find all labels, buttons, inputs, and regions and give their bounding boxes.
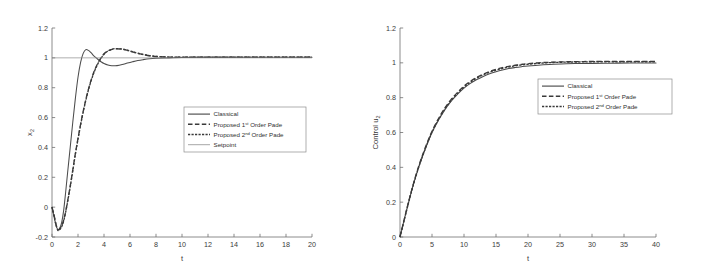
- legend-label-suffix: Order Pade: [248, 121, 282, 128]
- y-tick-label: 1.2: [38, 24, 48, 33]
- x-tick-label: 20: [524, 240, 532, 249]
- chart-panel-right: 051015202530354000.20.40.60.811.2tContro…: [352, 0, 704, 273]
- y-tick-label: 0.8: [38, 83, 48, 92]
- left-chart-svg: 02468101214161820-0.200.20.40.60.811.2tx…: [0, 0, 352, 273]
- x-tick-label: 14: [230, 240, 238, 249]
- y-tick-label: 0.4: [38, 143, 48, 152]
- y-tick-label: -0.2: [36, 233, 48, 242]
- legend-label-prefix: Proposed 2: [568, 103, 600, 110]
- y-axis-label: x2: [25, 129, 35, 136]
- y-tick-label: 0.6: [386, 128, 396, 137]
- x-tick-label: 10: [178, 240, 186, 249]
- x-tick-label: 2: [76, 240, 80, 249]
- y-axis-label-main: Control u: [371, 119, 380, 150]
- x-axis-label: t: [181, 254, 184, 263]
- x-tick-label: 4: [102, 240, 106, 249]
- legend-label-prefix: Proposed 1: [214, 121, 246, 128]
- x-tick-label: 40: [652, 240, 660, 249]
- legend-label: Proposed 1st Order Pade: [214, 121, 283, 128]
- legend-label-suffix: Order Pade: [250, 131, 284, 138]
- y-tick-label: 0: [392, 233, 396, 242]
- x-tick-label: 25: [556, 240, 564, 249]
- y-tick-label: 0.6: [38, 113, 48, 122]
- x-tick-label: 6: [128, 240, 132, 249]
- legend: ClassicalProposed 1st Order PadeProposed…: [184, 107, 306, 152]
- legend-label: Setpoint: [214, 141, 237, 148]
- legend-label-suffix: Order Pade: [602, 93, 636, 100]
- x-tick-label: 15: [492, 240, 500, 249]
- legend: ClassicalProposed 1st Order PadeProposed…: [538, 79, 672, 114]
- x-tick-label: 10: [460, 240, 468, 249]
- legend-label-prefix: Proposed 1: [568, 93, 600, 100]
- x-tick-label: 5: [430, 240, 434, 249]
- axes-group: [400, 28, 656, 237]
- figure-container: 02468101214161820-0.200.20.40.60.811.2tx…: [0, 0, 704, 273]
- legend-label: Classical: [214, 110, 239, 117]
- y-tick-label: 0: [44, 203, 48, 212]
- x-tick-label: 12: [204, 240, 212, 249]
- x-tick-label: 20: [308, 240, 316, 249]
- x-tick-label: 0: [50, 240, 54, 249]
- right-chart-svg: 051015202530354000.20.40.60.811.2tContro…: [352, 0, 704, 273]
- chart-panel-left: 02468101214161820-0.200.20.40.60.811.2tx…: [0, 0, 352, 273]
- y-tick-label: 0.2: [386, 198, 396, 207]
- x-axis-label: t: [527, 254, 530, 263]
- x-tick-label: 8: [154, 240, 158, 249]
- x-tick-label: 0: [398, 240, 402, 249]
- x-tick-group: 02468101214161820: [50, 234, 316, 249]
- x-tick-label: 35: [620, 240, 628, 249]
- legend-label-suffix: Order Pade: [604, 103, 638, 110]
- legend-label: Classical: [568, 82, 593, 89]
- y-tick-label: 1.2: [386, 24, 396, 33]
- y-tick-label: 1: [392, 58, 396, 67]
- y-tick-label: 1: [44, 53, 48, 62]
- legend-label-prefix: Proposed 2: [214, 131, 246, 138]
- y-tick-label: 0.4: [386, 163, 396, 172]
- legend-label: Proposed 1st Order Pade: [568, 93, 637, 100]
- x-tick-group: 0510152025303540: [398, 234, 660, 249]
- y-axis-label-subscript: 2: [29, 129, 35, 132]
- x-tick-label: 18: [282, 240, 290, 249]
- y-tick-label: 0.2: [38, 173, 48, 182]
- x-tick-label: 16: [256, 240, 264, 249]
- y-tick-label: 0.8: [386, 93, 396, 102]
- y-axis-label: Control u2: [371, 116, 381, 150]
- y-tick-group: 00.20.40.60.811.2: [386, 24, 403, 242]
- x-tick-label: 30: [588, 240, 596, 249]
- y-axis-label-subscript: 2: [375, 116, 381, 119]
